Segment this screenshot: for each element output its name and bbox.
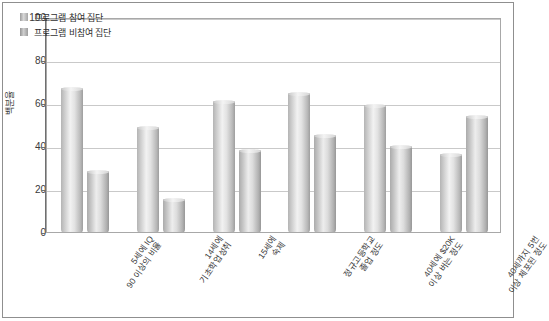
bar [440, 154, 462, 232]
bar-top-cap [61, 87, 83, 91]
bar [239, 150, 261, 232]
bar-top-cap [213, 100, 235, 104]
bar-group [350, 19, 426, 232]
x-axis-label: 14세에기초학업성취 [189, 234, 233, 285]
legend-swatch-icon [20, 13, 28, 21]
chart-legend: 프로그램 참여 집단 프로그램 비참여 집단 [16, 8, 115, 42]
bar [87, 171, 109, 232]
bar [466, 116, 488, 232]
legend-item-participation: 프로그램 참여 집단 [20, 10, 111, 24]
bar-top-cap [163, 198, 185, 202]
bar [137, 127, 159, 232]
y-tick-mark [41, 233, 45, 234]
legend-label: 프로그램 참여 집단 [34, 11, 103, 24]
x-axis-label: 40세에 $20K이상 버는 정도 [419, 234, 466, 289]
bar-top-cap [390, 145, 412, 149]
bar-group [426, 19, 502, 232]
legend-swatch-icon [20, 28, 28, 36]
bar-group [123, 19, 199, 232]
bar-top-cap [137, 126, 159, 130]
bar-group [275, 19, 351, 232]
bar-top-cap [466, 115, 488, 119]
bar [288, 93, 310, 232]
legend-item-non-participation: 프로그램 비참여 집단 [20, 25, 111, 39]
x-axis-labels: 5세에 IQ90 이상의 비율14세에기초학업성취15세에숙제정규고등학교졸업 … [46, 234, 501, 320]
bar-group [47, 19, 123, 232]
bar-top-cap [87, 170, 109, 174]
bars-layer [47, 19, 500, 232]
bar [163, 199, 185, 232]
x-axis-label: 정규고등학교졸업 정도 [341, 234, 385, 285]
bar-top-cap [440, 153, 462, 157]
y-axis-title: 백분율 [3, 80, 16, 126]
bar-top-cap [314, 134, 336, 138]
bar [390, 146, 412, 232]
x-axis-label: 5세에 IQ90 이상의 비율 [116, 234, 163, 290]
bar [61, 88, 83, 232]
y-axis: 100 80 60 40 20 0 [0, 0, 46, 321]
bar [364, 105, 386, 232]
bar [314, 135, 336, 232]
plot-area [46, 18, 501, 233]
bar-top-cap [288, 92, 310, 96]
x-axis-label: 15세에숙제 [256, 234, 287, 266]
bar-group [199, 19, 275, 232]
bar-top-cap [239, 149, 261, 153]
bar-top-cap [364, 104, 386, 108]
legend-label: 프로그램 비참여 집단 [34, 26, 111, 39]
bar [213, 101, 235, 232]
